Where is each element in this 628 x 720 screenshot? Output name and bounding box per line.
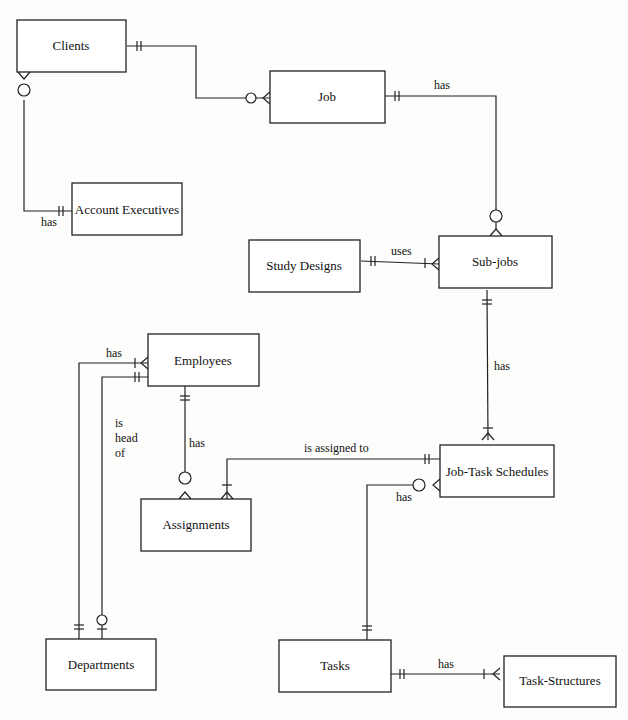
label-tasks-task-structures: has — [438, 657, 454, 671]
svg-text:Job-Task Schedules: Job-Task Schedules — [446, 464, 549, 479]
label-employee-head-l1: is — [115, 416, 123, 430]
svg-text:Clients: Clients — [53, 38, 90, 53]
svg-text:Job: Job — [318, 89, 336, 104]
svg-text:Study Designs: Study Designs — [266, 258, 341, 273]
er-diagram: has has uses has has is head of has is a… — [0, 0, 628, 720]
label-employee-head-l2: head — [115, 431, 138, 445]
label-departments-employees: has — [106, 346, 122, 360]
svg-text:Tasks: Tasks — [320, 658, 349, 673]
entity-account-executives: Account Executives — [72, 183, 182, 235]
svg-text:Sub-jobs: Sub-jobs — [472, 254, 518, 269]
label-assignments-job-task-schedules: is assigned to — [304, 441, 369, 455]
label-employee-head-l3: of — [115, 446, 125, 460]
entity-departments: Departments — [46, 639, 156, 690]
svg-text:Account Executives: Account Executives — [75, 202, 179, 217]
rel-study-designs-sub-jobs — [361, 256, 439, 270]
label-study-designs-sub-jobs: uses — [391, 244, 412, 258]
entity-study-designs: Study Designs — [249, 240, 360, 292]
entity-tasks: Tasks — [279, 640, 391, 692]
entity-employees: Employees — [148, 334, 259, 386]
rel-sub-jobs-job-task-schedules — [482, 290, 494, 440]
label-sub-jobs-job-task-schedules: has — [494, 359, 510, 373]
label-job-sub-jobs: has — [434, 78, 450, 92]
label-clients-account-executives: has — [41, 215, 57, 229]
label-employees-assignments: has — [189, 436, 205, 450]
svg-text:Task-Structures: Task-Structures — [519, 673, 600, 688]
entity-job-task-schedules: Job-Task Schedules — [440, 445, 554, 497]
entity-clients: Clients — [17, 20, 126, 72]
svg-text:Employees: Employees — [174, 353, 232, 368]
entity-task-structures: Task-Structures — [504, 656, 616, 707]
entity-assignments: Assignments — [141, 499, 251, 551]
rel-clients-account-executives — [18, 72, 72, 216]
rel-clients-job — [127, 41, 270, 104]
rel-departments-employees-has — [74, 357, 148, 639]
svg-text:Assignments: Assignments — [162, 517, 229, 532]
rel-job-sub-jobs — [385, 91, 502, 236]
entity-sub-jobs: Sub-jobs — [439, 236, 552, 288]
label-tasks-job-task-schedules: has — [396, 490, 412, 504]
entity-job: Job — [270, 71, 385, 123]
svg-text:Departments: Departments — [68, 657, 134, 672]
